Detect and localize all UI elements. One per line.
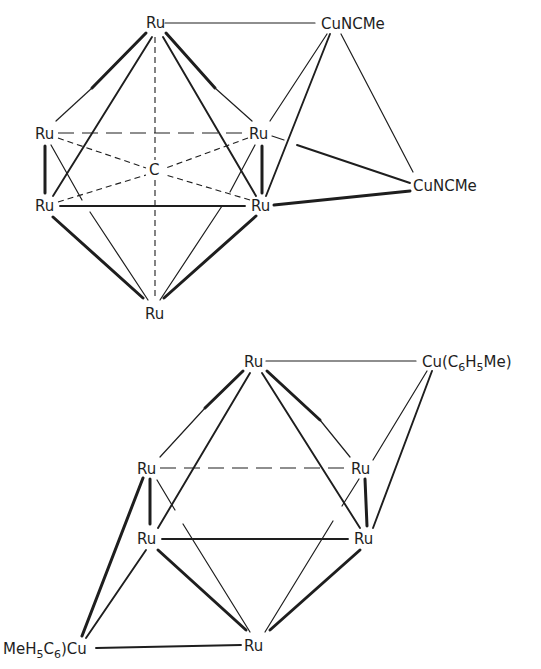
cu-top-prefix: Cu(C bbox=[422, 353, 458, 371]
atom-ru-top: Ru bbox=[244, 353, 263, 371]
top-bonds bbox=[45, 23, 413, 300]
bond-carbide bbox=[58, 138, 146, 168]
bond-cu-left-ru-bottom bbox=[96, 645, 241, 648]
atom-cu-top: Cu(C6H5Me) bbox=[422, 353, 512, 374]
bottom-bonds bbox=[82, 361, 432, 648]
bond bbox=[166, 33, 215, 88]
bond bbox=[342, 479, 359, 506]
bond-ru-cu-top bbox=[266, 34, 330, 196]
bond bbox=[270, 550, 360, 630]
bond-ru-cu-top bbox=[373, 371, 427, 460]
atom-ru-right-mid: Ru bbox=[351, 460, 370, 478]
bond bbox=[164, 216, 256, 298]
bond bbox=[272, 136, 284, 140]
atom-ru-left-mid: Ru bbox=[137, 460, 156, 478]
bond-ru-cu-top bbox=[270, 34, 327, 121]
bond bbox=[90, 212, 148, 300]
cu-top-suffix: Me) bbox=[484, 353, 512, 371]
atom-cu-right: CuNCMe bbox=[413, 177, 477, 195]
atom-ru-right-low: Ru bbox=[354, 530, 373, 548]
cu-top-mid: H bbox=[465, 353, 476, 371]
bond-ru-cu-left bbox=[86, 550, 146, 638]
cu-left-suffix: )Cu bbox=[61, 640, 87, 658]
bond bbox=[158, 550, 246, 630]
bond bbox=[183, 524, 250, 632]
atom-carbide: C bbox=[149, 161, 159, 179]
cu-left-prefix: MeH bbox=[3, 640, 36, 658]
bond bbox=[53, 217, 143, 298]
cu-top-sub1: 6 bbox=[458, 361, 465, 374]
atom-cu-left: MeH5C6)Cu bbox=[3, 640, 87, 661]
bond-carbide bbox=[58, 175, 146, 202]
bond bbox=[320, 420, 350, 457]
atom-ru-right-low: Ru bbox=[251, 197, 270, 215]
bond bbox=[205, 371, 243, 408]
bond bbox=[267, 371, 320, 420]
atom-ru-left-low: Ru bbox=[137, 530, 156, 548]
bottom-structure: Ru Cu(C6H5Me) Ru Ru Ru Ru Ru MeH5C6)Cu bbox=[3, 353, 512, 661]
cu-left-mid: C bbox=[43, 640, 53, 658]
atom-ru-bottom: Ru bbox=[145, 305, 164, 323]
atom-ru-left-low: Ru bbox=[35, 197, 54, 215]
bond bbox=[163, 37, 256, 196]
cu-left-sub1: 5 bbox=[36, 648, 43, 661]
atom-cu-top: CuNCMe bbox=[321, 15, 385, 33]
bond bbox=[56, 88, 92, 121]
bond-ru-cu-left bbox=[82, 478, 143, 636]
bond bbox=[230, 145, 255, 192]
bond-ru-cu-right bbox=[274, 191, 410, 205]
top-structure: Ru CuNCMe Ru Ru C Ru Ru CuNCMe Ru bbox=[35, 14, 477, 323]
bond bbox=[215, 88, 252, 121]
bond bbox=[265, 521, 333, 632]
cu-left-sub2: 6 bbox=[54, 648, 61, 661]
bond bbox=[53, 37, 152, 196]
atom-ru-bottom: Ru bbox=[244, 637, 263, 655]
atom-ru-left-mid: Ru bbox=[35, 125, 54, 143]
bond-ru-cu-top bbox=[373, 371, 432, 528]
atom-ru-right-mid: Ru bbox=[249, 125, 268, 143]
bond-carbide bbox=[166, 138, 248, 168]
bond-cu-cu bbox=[341, 34, 413, 172]
bond bbox=[157, 480, 175, 510]
cu-top-sub2: 5 bbox=[477, 361, 484, 374]
cluster-diagram: Ru CuNCMe Ru Ru C Ru Ru CuNCMe Ru bbox=[0, 0, 541, 669]
bond bbox=[160, 408, 205, 457]
bond-ru-cu-right bbox=[297, 145, 410, 183]
bond bbox=[365, 479, 367, 526]
atom-ru-top: Ru bbox=[146, 14, 165, 32]
